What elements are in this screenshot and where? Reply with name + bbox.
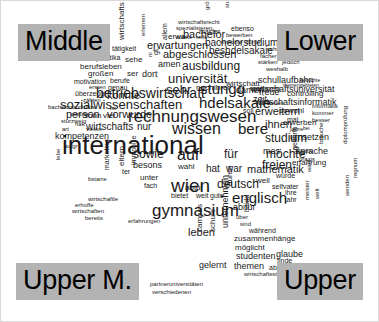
word-cloud-term: marketing (103, 139, 110, 170)
word-cloud-term: jahr (285, 196, 297, 203)
word-cloud-term: auf (177, 147, 199, 163)
word-cloud-term: regnum (352, 158, 358, 178)
word-cloud-term: lebe (55, 149, 61, 160)
word-cloud-term: bere (238, 121, 268, 136)
quadrant-label-middle: Middle (18, 24, 110, 61)
word-cloud-term: weshalb (266, 66, 288, 72)
word-cloud-term: controlling (287, 90, 323, 98)
word-cloud-term: hat (206, 164, 220, 174)
word-cloud-term: wahl (306, 160, 312, 172)
word-cloud-term: berufe (110, 77, 130, 84)
word-cloud-term: partneruniversitäten (150, 281, 203, 287)
word-cloud-term: ihre (285, 189, 297, 196)
quadrant-label-upper-middle: Upper M. (16, 263, 139, 300)
word-cloud-term: bei (303, 126, 310, 131)
word-cloud-term: verschiedenen (152, 289, 191, 295)
word-cloud-term: würde (276, 172, 295, 179)
word-cloud-term: ebenso (231, 25, 254, 32)
word-cloud-term: gelernt (199, 261, 227, 270)
word-cloud-term: sowie (133, 148, 164, 160)
word-cloud-term: sehe (125, 56, 142, 64)
word-cloud-term: fach (144, 182, 157, 189)
word-cloud-term: konnte (107, 90, 140, 101)
word-cloud-term: erfahrungen (128, 218, 160, 224)
word-cloud-term: während (249, 227, 276, 234)
word-cloud-term: nach (196, 84, 213, 92)
word-cloud-term: viel (103, 112, 115, 120)
word-cloud-term: wahl (178, 163, 194, 171)
quadrant-label-upper: Upper (277, 263, 363, 300)
word-cloud-term: wissen (172, 121, 221, 137)
word-cloud-term: welt (314, 188, 320, 199)
word-cloud-term: bewerben (226, 32, 252, 38)
word-cloud-term: campus (196, 204, 204, 232)
word-cloud-term: soll (243, 107, 254, 114)
word-cloud-term: studenten (236, 252, 276, 261)
word-cloud-term: ter (122, 168, 130, 175)
word-cloud-term: aufgr (64, 143, 78, 149)
word-cloud-term: bauld (243, 195, 250, 212)
word-cloud-term: unter (140, 174, 158, 182)
word-cloud-term: reife (196, 34, 208, 40)
word-cloud-term: besons (133, 161, 162, 170)
word-cloud-term: kompetenzen (55, 132, 109, 141)
word-cloud-term: über (236, 214, 248, 220)
word-cloud-term: nur (137, 122, 151, 132)
word-cloud-term: erlernen (140, 14, 146, 36)
word-cloud-term: vielen (86, 126, 102, 132)
word-cloud-term: möglicht (235, 244, 265, 252)
word-cloud-figure: internationalrechnungswesenbetriebswirts… (0, 0, 379, 322)
word-cloud-term: kommer (312, 110, 334, 116)
word-cloud-term: wirtschaft (226, 80, 260, 88)
word-cloud-term: genau (108, 84, 127, 91)
word-cloud-term: mal (287, 116, 298, 123)
word-cloud-term: immobilie (130, 135, 137, 165)
word-cloud-term: stundet (224, 0, 230, 8)
word-cloud-term: besuchte (300, 78, 320, 83)
word-cloud-term: schule (209, 209, 217, 232)
word-cloud-term: durfte (245, 39, 260, 45)
word-cloud-term: gt (152, 49, 159, 55)
word-cloud-term: bietet (171, 192, 188, 199)
word-cloud-term: überzeugt (75, 90, 106, 97)
word-cloud-term: ni (147, 52, 153, 57)
word-cloud-term: geehrte (291, 126, 298, 150)
word-cloud-term: zählen (83, 97, 101, 103)
word-cloud-term: themen (234, 262, 264, 271)
word-cloud-term: tätigkeit (112, 45, 136, 52)
word-cloud-term: wirtschafts (118, 2, 126, 40)
word-cloud-term: ausbildung (182, 60, 240, 72)
word-cloud-term: allem (161, 23, 168, 40)
word-cloud-term: themengebieten (283, 83, 319, 88)
word-cloud-term: zusammenhänge (234, 235, 295, 243)
word-cloud-term: ist (110, 105, 116, 111)
word-cloud-term: erwa (168, 33, 185, 41)
word-cloud-term: vorstellen (258, 100, 284, 106)
word-cloud-term: weil (256, 177, 270, 185)
word-cloud-term: weit (196, 192, 208, 199)
word-cloud-term: dort (142, 70, 158, 79)
word-cloud-term: sonn (84, 112, 101, 120)
word-cloud-term: mes (263, 147, 280, 156)
word-cloud-term: art (62, 126, 69, 132)
word-cloud-term: wenden (344, 175, 350, 196)
word-cloud-term: duren (226, 166, 234, 186)
word-cloud-term: sowohl (279, 107, 304, 115)
word-cloud-term: brauche (318, 122, 324, 144)
word-cloud-term: bereits (85, 215, 103, 221)
word-cloud-term: amen (158, 60, 181, 69)
word-cloud-term: entschie (220, 39, 242, 45)
word-cloud-term: informatik (312, 103, 338, 109)
word-cloud-term: für (224, 148, 238, 160)
quadrant-label-lower: Lower (277, 24, 363, 61)
word-cloud-term: abtur (185, 184, 203, 192)
word-cloud-term: bstarre (88, 176, 107, 182)
word-cloud-term: eltern (118, 146, 126, 166)
word-cloud-term: sind (240, 221, 251, 227)
word-cloud-term: größten (204, 0, 210, 10)
word-cloud-term: wirtschaften (72, 208, 104, 214)
word-cloud-term: hak (75, 121, 85, 127)
word-cloud-term: bachelorstudiums (48, 104, 95, 110)
word-cloud-term: diplomprüfung (342, 106, 348, 144)
word-cloud-term: stärken (258, 59, 278, 65)
